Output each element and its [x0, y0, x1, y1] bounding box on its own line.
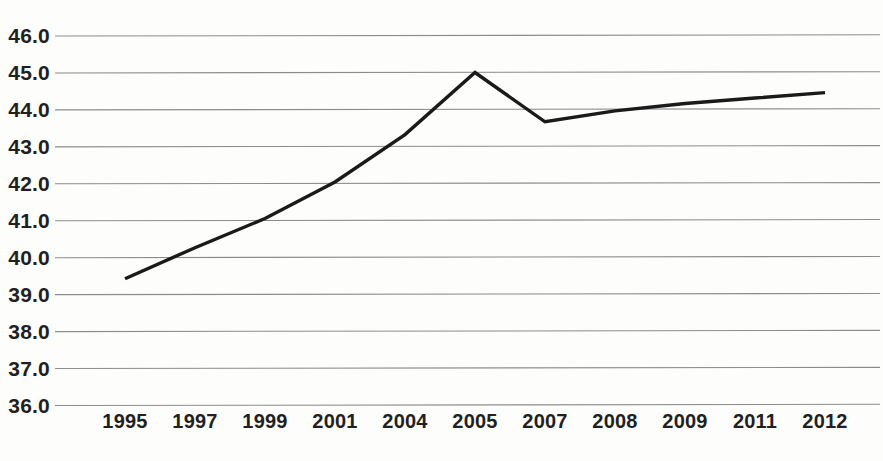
x-axis-tick-label: 2005	[452, 411, 497, 431]
chart-plot-area	[0, 0, 883, 461]
x-axis-tick-label: 2012	[802, 411, 847, 431]
gridline	[55, 330, 880, 331]
gridline	[55, 146, 880, 147]
gridline	[55, 293, 880, 294]
x-axis-tick-label: 2004	[382, 411, 427, 431]
x-axis-tick-label: 1995	[102, 411, 147, 431]
y-axis-tick-label: 45.0	[0, 62, 50, 83]
y-axis-tick-label: 43.0	[0, 136, 50, 157]
gridline	[55, 367, 880, 368]
x-axis-tick-label: 1997	[172, 411, 217, 431]
x-axis-tick-label: 1999	[242, 411, 287, 431]
y-axis-tick-label: 36.0	[0, 395, 50, 416]
y-axis-tick-label: 41.0	[0, 210, 50, 231]
y-axis-tick-label: 38.0	[0, 321, 50, 342]
x-axis-tick-label: 2007	[522, 411, 567, 431]
gridline	[55, 183, 880, 184]
gridline	[55, 109, 880, 110]
gridline	[55, 35, 880, 36]
x-axis-tick-label: 2009	[662, 411, 707, 431]
y-axis-tick-label: 46.0	[0, 25, 50, 46]
data-series-line	[125, 73, 825, 279]
gridline	[55, 404, 880, 405]
y-axis-tick-label: 37.0	[0, 358, 50, 379]
x-axis-tick-label: 2011	[733, 411, 777, 431]
gridline	[55, 72, 880, 73]
y-axis-tick-label: 40.0	[0, 247, 50, 268]
gridlines-group	[55, 35, 880, 406]
line-chart: 46.045.044.043.042.041.040.039.038.037.0…	[0, 0, 883, 461]
y-axis-tick-label: 44.0	[0, 99, 50, 120]
x-axis-tick-label: 2008	[592, 411, 637, 431]
x-axis-tick-label: 2001	[312, 411, 357, 431]
gridline	[55, 220, 880, 221]
y-axis-tick-label: 42.0	[0, 173, 50, 194]
y-axis-tick-label: 39.0	[0, 284, 50, 305]
